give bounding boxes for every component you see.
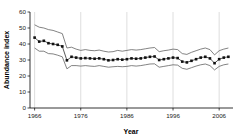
data-point-marker bbox=[167, 57, 170, 60]
data-point-marker bbox=[79, 57, 82, 60]
y-tick-label: 40 bbox=[19, 40, 26, 47]
y-tick-label: 50 bbox=[19, 24, 26, 31]
data-point-marker bbox=[139, 57, 142, 60]
y-tick-label: 30 bbox=[19, 56, 26, 63]
data-point-marker bbox=[116, 58, 119, 61]
data-point-marker bbox=[213, 62, 216, 65]
data-point-marker bbox=[103, 58, 106, 61]
data-point-marker bbox=[163, 58, 166, 61]
x-tick-label: 2006 bbox=[212, 112, 226, 119]
data-point-marker bbox=[195, 58, 198, 61]
abundance-index-line-chart: 19661976198619962006 0102030405060 Year … bbox=[0, 0, 247, 137]
data-point-marker bbox=[43, 40, 46, 43]
data-point-marker bbox=[107, 59, 110, 62]
y-tick-label: 10 bbox=[19, 88, 26, 95]
x-axis-title: Year bbox=[124, 128, 139, 135]
data-point-marker bbox=[181, 60, 184, 63]
x-tick-label: 1966 bbox=[28, 112, 42, 119]
data-point-marker bbox=[112, 59, 115, 62]
data-point-marker bbox=[84, 57, 87, 60]
data-point-marker bbox=[33, 36, 36, 39]
data-point-marker bbox=[158, 59, 161, 62]
x-tick-label: 1976 bbox=[74, 112, 88, 119]
data-point-marker bbox=[176, 57, 179, 60]
data-point-marker bbox=[209, 57, 212, 60]
data-point-marker bbox=[61, 45, 64, 48]
data-point-marker bbox=[227, 56, 230, 59]
data-point-marker bbox=[144, 56, 147, 59]
data-point-marker bbox=[186, 61, 189, 64]
data-point-marker bbox=[190, 60, 193, 63]
data-point-marker bbox=[98, 57, 101, 60]
data-point-marker bbox=[204, 56, 207, 59]
data-point-marker bbox=[199, 56, 202, 59]
data-point-marker bbox=[56, 44, 59, 47]
data-point-marker bbox=[135, 57, 138, 60]
chart-canvas: 19661976198619962006 0102030405060 Year … bbox=[0, 0, 247, 137]
y-tick-label: 60 bbox=[19, 8, 26, 15]
data-point-marker bbox=[52, 43, 55, 46]
data-point-marker bbox=[47, 42, 50, 45]
y-tick-label: 20 bbox=[19, 72, 26, 79]
y-axis-title: Abundance index bbox=[3, 31, 10, 89]
data-point-marker bbox=[89, 57, 92, 60]
x-tick-label: 1986 bbox=[120, 112, 134, 119]
x-tick-label: 1996 bbox=[166, 112, 180, 119]
data-point-marker bbox=[149, 56, 152, 59]
data-point-marker bbox=[75, 56, 78, 59]
data-point-marker bbox=[126, 58, 129, 61]
data-point-marker bbox=[93, 57, 96, 60]
y-tick-label: 0 bbox=[23, 104, 27, 111]
data-point-marker bbox=[130, 57, 133, 60]
data-point-marker bbox=[121, 58, 124, 61]
data-point-marker bbox=[153, 55, 156, 58]
data-point-marker bbox=[172, 56, 175, 59]
data-point-marker bbox=[218, 58, 221, 61]
data-point-marker bbox=[70, 56, 73, 59]
chart-figure: 19661976198619962006 0102030405060 Year … bbox=[0, 0, 247, 137]
data-point-marker bbox=[66, 59, 69, 62]
data-point-marker bbox=[38, 40, 41, 43]
data-point-marker bbox=[222, 56, 225, 59]
